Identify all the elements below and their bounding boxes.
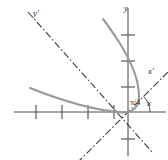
y-prime-axis-line <box>28 12 152 152</box>
x-prime-axis-line <box>58 70 168 160</box>
figure-canvas <box>0 0 168 160</box>
x-prime-axis-group <box>58 70 168 160</box>
y-prime-axis-label: y′ <box>33 9 39 18</box>
y-prime-axis-group <box>28 12 152 152</box>
x-prime-axis-label: x′ <box>148 67 154 76</box>
angle-pi-over-four-label: π/4 <box>130 99 140 107</box>
x-axis-label: x <box>147 99 151 108</box>
y-axis-group <box>121 8 135 156</box>
rotated-conic-figure: y′ y x′ π/4 x <box>0 0 168 160</box>
y-axis-label: y <box>124 4 128 13</box>
